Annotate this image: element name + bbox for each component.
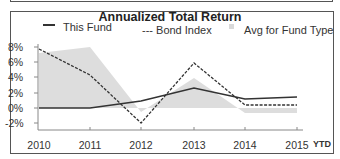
y-tick-label: 8% (8, 41, 32, 53)
y-tick-label: 2% (8, 87, 32, 99)
x-tick-label: 2013 (174, 139, 214, 151)
x-tick-label: 2012 (121, 139, 161, 151)
y-axis-ticks (34, 47, 38, 123)
x-tick-label: 2014 (225, 139, 265, 151)
avg-fund-type-area (39, 47, 297, 113)
x-tick-label: 2015 (277, 139, 317, 151)
y-tick-label: -2% (5, 117, 29, 129)
y-tick-label: 4% (8, 71, 32, 83)
y-tick-label: 0% (8, 102, 32, 114)
plot-area (0, 0, 340, 159)
x-tick-label: 2011 (70, 139, 110, 151)
ytd-label: YTD (313, 139, 331, 149)
y-tick-label: 6% (8, 56, 32, 68)
x-tick-label: 2010 (19, 139, 59, 151)
